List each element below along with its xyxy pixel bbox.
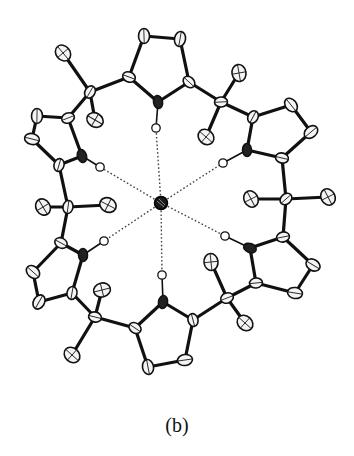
hydrogen-bond <box>161 163 223 203</box>
carbon-atom <box>30 293 47 311</box>
carbon-atom <box>173 31 186 48</box>
carbon-atom <box>181 74 197 90</box>
methyl-carbon-atom <box>84 110 106 131</box>
methyl-carbon-atom <box>92 281 112 299</box>
carbon-atom <box>287 286 304 299</box>
figure-caption: (b) <box>0 414 354 437</box>
meso-carbon-atom <box>278 191 294 207</box>
methyl-carbon-atom <box>241 188 261 210</box>
central-anion <box>155 197 168 210</box>
nitrogen-atom <box>242 241 257 254</box>
carbon-atom <box>246 109 261 125</box>
methyl-carbon-atom <box>318 186 338 208</box>
nitrogen-atom <box>78 248 88 261</box>
meso-carbon-atom <box>87 311 102 324</box>
methyl-carbon-atom <box>33 196 54 218</box>
hydrogen-bond <box>161 203 225 236</box>
methyl-carbon-atom <box>61 344 83 366</box>
hydrogen-bond <box>156 128 161 203</box>
carbon-atom <box>31 108 42 123</box>
hydrogen-atom <box>158 271 166 279</box>
hydrogen-bond <box>161 203 162 275</box>
hydrogen-atom <box>219 159 227 167</box>
hydrogen-atom <box>100 237 108 245</box>
nitrogen-atom <box>242 143 251 156</box>
carbon-atom <box>249 277 263 288</box>
nitrogen-atom <box>76 148 88 163</box>
carbon-atom <box>141 359 155 376</box>
carbon-atom <box>186 312 199 327</box>
atoms <box>23 28 338 375</box>
ortep-structure-figure <box>0 0 354 456</box>
methyl-carbon-atom <box>234 312 256 334</box>
carbon-atom <box>177 354 193 367</box>
meso-carbon-atom <box>62 200 74 214</box>
carbon-atom <box>138 28 150 43</box>
methyl-carbon-atom <box>97 195 119 215</box>
hydrogen-atom <box>152 124 160 132</box>
methyl-carbon-atom <box>52 42 74 64</box>
methyl-carbon-atom <box>195 126 217 148</box>
nitrogen-atom <box>152 95 163 109</box>
hydrogen-atom <box>221 232 229 240</box>
hydrogen-atom <box>96 163 104 171</box>
methyl-carbon-atom <box>203 253 219 271</box>
nitrogen-atom <box>158 295 169 309</box>
meso-carbon-atom <box>214 97 228 108</box>
